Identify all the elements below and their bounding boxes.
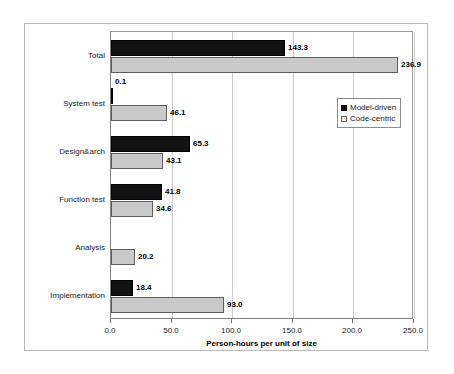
plot-area: Total143.3236.9System test0.146.1Design&… (110, 31, 413, 319)
x-axis-tick-label: 100.0 (221, 326, 241, 336)
bar-value-label: 43.1 (166, 156, 182, 166)
bar-1 (111, 297, 224, 313)
bar-1 (111, 105, 167, 121)
bar-value-label: 20.2 (138, 252, 154, 262)
category-band: Implementation18.493.0 (111, 272, 412, 320)
x-axis-tick-label: 50.0 (163, 326, 179, 336)
filled-black-square-icon (341, 105, 347, 111)
legend-item-model-driven: Model-driven (341, 102, 396, 113)
bar-value-label: 143.3 (288, 43, 308, 53)
y-axis-category-label: Implementation (50, 291, 105, 301)
x-axis-tick-mark (110, 319, 111, 323)
x-axis-tick-mark (231, 319, 232, 323)
category-band: Design&arch65.343.1 (111, 128, 412, 176)
category-band: Function test41.834.6 (111, 176, 412, 224)
outlined-light-square-icon (341, 116, 347, 122)
bar-value-label: 65.3 (193, 139, 209, 149)
x-axis-tick-label: 250.0 (403, 326, 423, 336)
bar-chart-figure: Total143.3236.9System test0.146.1Design&… (0, 0, 454, 374)
y-axis-category-label: System test (63, 99, 105, 109)
y-axis-category-label: Total (88, 51, 105, 61)
bar-value-label: 41.8 (165, 187, 181, 197)
category-band: Total143.3236.9 (111, 32, 412, 80)
bar-value-label: 0.1 (115, 77, 126, 87)
legend-item-code-centric: Code-centric (341, 113, 396, 124)
x-axis-tick-mark (352, 319, 353, 323)
y-axis-category-label: Analysis (75, 243, 105, 253)
x-axis-tick-mark (292, 319, 293, 323)
y-axis-category-label: Design&arch (59, 147, 105, 157)
x-axis-tick-label: 150.0 (282, 326, 302, 336)
bar-0 (111, 136, 190, 152)
bar-1 (111, 249, 135, 265)
bar-0 (111, 88, 113, 104)
bar-1 (111, 57, 398, 73)
x-axis-tick-mark (413, 319, 414, 323)
category-bands: Total143.3236.9System test0.146.1Design&… (111, 32, 412, 318)
bar-0 (111, 40, 285, 56)
x-axis-tick-label: 0.0 (104, 326, 115, 336)
x-axis-title: Person-hours per unit of size (110, 339, 413, 348)
y-axis-category-label: Function test (59, 195, 105, 205)
bar-1 (111, 201, 153, 217)
x-axis-tick-label: 200.0 (342, 326, 362, 336)
bar-value-label: 93.0 (227, 300, 243, 310)
legend: Model-driven Code-centric (337, 98, 401, 128)
category-band: Analysis20.2 (111, 224, 412, 272)
x-axis-tick-mark (171, 319, 172, 323)
legend-item-label: Model-driven (350, 103, 396, 113)
bar-value-label: 46.1 (170, 108, 186, 118)
bar-1 (111, 153, 163, 169)
legend-item-label: Code-centric (350, 114, 395, 124)
bar-0 (111, 280, 133, 296)
bar-value-label: 18.4 (136, 283, 152, 293)
bar-value-label: 34.6 (156, 204, 172, 214)
bar-0 (111, 184, 162, 200)
bar-value-label: 236.9 (401, 60, 421, 70)
